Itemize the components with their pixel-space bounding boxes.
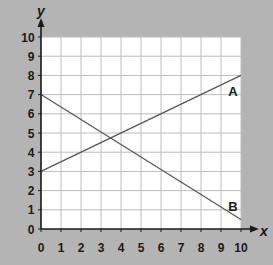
line-label-b: B: [228, 199, 237, 214]
x-tick-label: 5: [138, 241, 145, 255]
y-axis-arrow-icon: [38, 18, 45, 27]
x-tick-label: 9: [218, 241, 225, 255]
x-tick-label: 1: [58, 241, 65, 255]
y-tick-label: 10: [21, 31, 35, 45]
x-tick-label: 0: [38, 241, 45, 255]
x-tick-label: 8: [198, 241, 205, 255]
plot-area: 012345678910012345678910xyAB: [21, 3, 269, 255]
y-tick-label: 8: [28, 69, 35, 83]
x-tick-label: 4: [118, 241, 125, 255]
y-tick-label: 3: [28, 165, 35, 179]
y-tick-label: 4: [28, 146, 35, 160]
y-tick-label: 9: [28, 50, 35, 64]
y-tick-label: 2: [28, 184, 35, 198]
x-tick-label: 7: [178, 241, 185, 255]
line-label-a: A: [228, 84, 238, 99]
y-tick-label: 7: [28, 88, 35, 102]
x-axis-arrow-icon: [250, 226, 259, 233]
x-axis-label: x: [259, 223, 269, 239]
x-tick-label: 3: [98, 241, 105, 255]
y-tick-label: 5: [28, 127, 35, 141]
x-tick-label: 6: [158, 241, 165, 255]
y-tick-label: 0: [28, 223, 35, 237]
x-tick-label: 2: [78, 241, 85, 255]
line-chart: 012345678910012345678910xyAB: [0, 0, 273, 265]
y-axis-label: y: [36, 3, 46, 19]
y-tick-label: 1: [28, 203, 35, 217]
y-tick-label: 6: [28, 107, 35, 121]
x-tick-label: 10: [234, 241, 248, 255]
